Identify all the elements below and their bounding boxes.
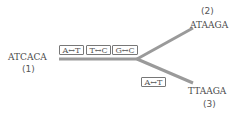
root-label: (1) (22, 64, 35, 74)
trunk-mutation-1: A↔T (59, 45, 84, 55)
upper-leaf-sequence: ATAAGA (190, 20, 228, 30)
lower-branch-mutation: A↔T (141, 77, 166, 87)
diagram-canvas: ATCACA (1) A↔T T↔C G↔C A↔T (2) ATAAGA TT… (0, 0, 238, 120)
trunk-mutation-2: T↔C (86, 45, 111, 55)
lower-leaf-sequence: TTAAGA (188, 86, 226, 96)
lower-leaf-label: (3) (203, 99, 216, 109)
upper-branch-edge (137, 28, 193, 59)
upper-leaf-label: (2) (201, 6, 214, 16)
root-sequence: ATCACA (8, 52, 47, 62)
trunk-mutation-3: G↔C (112, 45, 138, 55)
